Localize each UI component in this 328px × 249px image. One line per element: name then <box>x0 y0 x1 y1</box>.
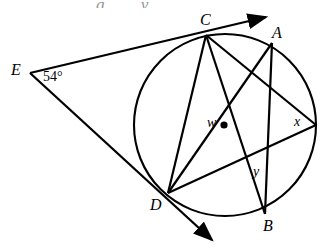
point-label-B: B <box>263 218 273 234</box>
geometry-figure: g y A B C D E 54° w x y <box>0 0 328 249</box>
intersection-point-w <box>220 121 227 128</box>
chord-C-F <box>206 35 316 125</box>
point-label-C: C <box>200 12 211 28</box>
point-label-A: A <box>272 25 282 41</box>
ray-E-to-D <box>30 73 212 240</box>
angle-label-w: w <box>207 116 216 130</box>
chord-A-B <box>265 43 272 214</box>
angle-label-y: y <box>253 165 259 179</box>
angle-label-x: x <box>294 115 300 129</box>
angle-label-54-degrees: 54° <box>43 70 63 84</box>
ray-E-to-C <box>30 17 266 73</box>
chord-D-F <box>168 125 316 193</box>
point-label-E: E <box>11 62 21 78</box>
chord-C-D <box>168 35 206 193</box>
point-label-D: D <box>150 197 162 213</box>
